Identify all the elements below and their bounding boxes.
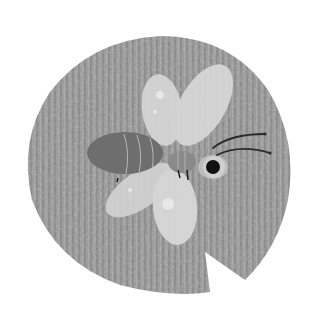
wing-highlight (162, 198, 174, 210)
wing-highlight (153, 110, 157, 114)
thorax (168, 151, 196, 173)
wing-highlight (156, 91, 164, 99)
illustration-canvas (0, 0, 314, 335)
dragonfly-lilypad-illustration (0, 0, 314, 335)
wing-highlight (128, 188, 132, 192)
eye (206, 160, 220, 174)
antenna-tip (268, 151, 271, 154)
antenna-tip (263, 132, 266, 135)
